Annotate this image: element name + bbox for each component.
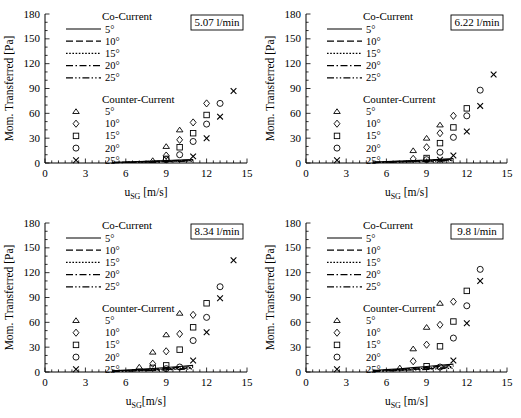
data-marker-square — [73, 133, 78, 138]
data-marker-circle — [73, 354, 79, 360]
svg-text:0: 0 — [303, 376, 309, 388]
legend-label: 25° — [105, 281, 120, 292]
data-marker-circle — [464, 113, 470, 119]
data-marker-square — [437, 140, 442, 145]
legend-label: 5° — [366, 106, 375, 117]
legend-title-cocurrent: Co-Current — [363, 219, 413, 231]
data-marker-cross — [477, 278, 483, 284]
chart-panel-2: 030609012015018003691215Mom. Transferred… — [261, 0, 521, 209]
svg-text:30: 30 — [290, 341, 302, 353]
y-axis-ticks: 0306090120150180 — [285, 8, 311, 169]
panel-1-svg: 030609012015018003691215Mom. Transferred… — [0, 0, 261, 209]
data-marker-triangle — [410, 148, 417, 153]
svg-text:0: 0 — [42, 376, 48, 388]
data-marker-cross — [217, 114, 223, 120]
svg-text:15: 15 — [502, 376, 514, 388]
legend-label: 15° — [366, 339, 381, 350]
svg-text:0: 0 — [35, 366, 41, 378]
legend-title-countercurrent: Counter-Current — [363, 93, 435, 105]
y-axis-ticks: 0306090120150180 — [24, 8, 50, 169]
svg-text:3: 3 — [83, 376, 89, 388]
data-marker-triangle — [437, 301, 444, 306]
flow-rate-value: 6.22 l/min — [454, 16, 500, 28]
svg-text:6: 6 — [123, 376, 129, 388]
data-marker-circle — [204, 121, 210, 127]
data-marker-triangle — [73, 318, 80, 323]
data-marker-cross — [451, 153, 457, 159]
legend-title-countercurrent: Counter-Current — [363, 302, 435, 314]
flow-rate-value: 8.34 l/min — [194, 225, 240, 237]
legend-title-countercurrent: Counter-Current — [102, 93, 174, 105]
flow-rate-value: 9.8 l/min — [457, 225, 497, 237]
svg-text:120: 120 — [285, 57, 302, 69]
data-marker-triangle — [334, 109, 341, 114]
x-axis-title: uSG [m/s] — [385, 186, 428, 201]
axis-lines — [306, 223, 507, 372]
legend-label: 5° — [105, 24, 114, 35]
svg-text:90: 90 — [29, 291, 41, 303]
svg-text:120: 120 — [24, 266, 41, 278]
legend: Co-Current5°10°15°20°25°Counter-Current5… — [327, 219, 435, 375]
legend-label: 20° — [105, 60, 120, 71]
data-marker-cross — [217, 295, 223, 301]
legend-label: 5° — [366, 24, 375, 35]
data-marker-diamond — [204, 100, 210, 107]
legend-label: 10° — [366, 118, 381, 129]
data-marker-triangle — [410, 346, 417, 351]
data-marker-cross — [190, 154, 196, 160]
legend-label: 20° — [105, 269, 120, 280]
svg-text:0: 0 — [303, 167, 309, 179]
data-marker-triangle — [163, 144, 170, 149]
data-marker-circle — [437, 149, 443, 155]
data-marker-diamond — [177, 136, 183, 143]
svg-text:0: 0 — [296, 366, 302, 378]
data-marker-diamond — [190, 119, 196, 126]
legend-label: 15° — [366, 257, 381, 268]
svg-text:9: 9 — [424, 376, 430, 388]
data-marker-cross — [334, 366, 340, 372]
svg-text:150: 150 — [285, 241, 302, 253]
data-marker-diamond — [73, 329, 79, 336]
svg-text:9: 9 — [163, 167, 169, 179]
data-marker-triangle — [163, 332, 170, 337]
y-axis-title: Mom. Transferred [Pa] — [264, 36, 276, 142]
svg-text:9: 9 — [424, 167, 430, 179]
data-marker-cross — [477, 103, 483, 109]
svg-text:120: 120 — [24, 57, 41, 69]
data-marker-circle — [217, 284, 223, 290]
data-marker-square — [334, 133, 339, 138]
svg-text:12: 12 — [201, 376, 212, 388]
data-marker-cross — [451, 358, 457, 364]
flow-rate-value: 5.07 l/min — [194, 16, 240, 28]
legend-label: 5° — [366, 315, 375, 326]
axis-lines — [306, 14, 507, 163]
legend-label: 25° — [105, 72, 120, 83]
data-marker-cross — [491, 72, 497, 78]
data-marker-square — [190, 130, 195, 135]
y-axis-ticks: 0306090120150180 — [285, 217, 311, 378]
svg-text:120: 120 — [285, 266, 302, 278]
data-marker-circle — [73, 145, 79, 151]
data-marker-square — [204, 112, 209, 117]
svg-text:15: 15 — [502, 167, 514, 179]
svg-text:150: 150 — [24, 241, 41, 253]
y-axis-title: Mom. Transferred [Pa] — [3, 36, 15, 142]
legend-label: 5° — [366, 233, 375, 244]
countercurrent-markers — [397, 227, 497, 370]
flow-rate-label: 5.07 l/min — [191, 15, 243, 30]
x-axis-title: uSG[m/s] — [126, 395, 166, 410]
svg-text:12: 12 — [461, 167, 472, 179]
legend-title-countercurrent: Counter-Current — [102, 302, 174, 314]
data-marker-circle — [334, 354, 340, 360]
data-marker-circle — [204, 314, 210, 320]
svg-text:6: 6 — [123, 167, 129, 179]
legend-label: 15° — [366, 48, 381, 59]
legend-title-cocurrent: Co-Current — [102, 10, 152, 22]
panel-4-svg: 030609012015018003691215Mom. Transferred… — [261, 209, 521, 418]
legend-label: 10° — [105, 245, 120, 256]
data-marker-circle — [190, 338, 196, 344]
legend-label: 20° — [105, 352, 120, 363]
legend-label: 5° — [105, 233, 114, 244]
data-marker-square — [204, 301, 209, 306]
data-marker-triangle — [73, 109, 80, 114]
